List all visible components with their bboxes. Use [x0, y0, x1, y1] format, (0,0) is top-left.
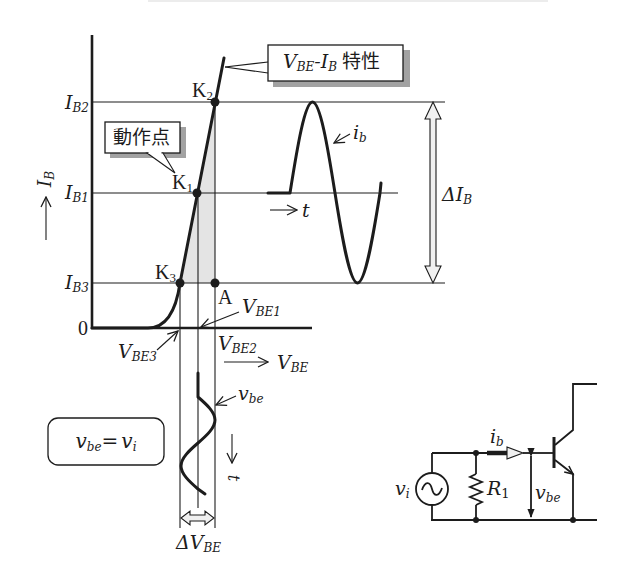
callout-characteristic: VBE-IB特性 [225, 45, 410, 87]
ac-tilde-icon [422, 483, 442, 495]
input-circuit: vi R1 ib vbe [395, 384, 597, 523]
tick-label-ib2: IB2 [64, 91, 89, 115]
base-current-label: ib [490, 425, 504, 449]
ib-wave-label: ib [353, 121, 367, 145]
callout-operating-point-text: 動作点 [113, 126, 170, 148]
x-axis-label: VBE [277, 351, 309, 375]
ib-time-label: t [302, 199, 310, 221]
label-a: A [218, 286, 233, 308]
callout-operating-point: 動作点 [105, 122, 186, 173]
node-dot [473, 450, 479, 456]
node-dot [473, 517, 479, 523]
equation-text: vbe=vi [75, 429, 136, 454]
label-k3: K3 [155, 261, 176, 285]
vbe-voltage-label: vbe [535, 481, 561, 505]
tick-label-vbe2: VBE2 [218, 332, 257, 356]
base-current-arrow-icon [507, 447, 523, 459]
callout-pointer-upper [225, 62, 268, 67]
source-label: vi [395, 477, 410, 501]
transistor-collector-lead [555, 384, 597, 445]
resistor-label: R1 [486, 477, 510, 501]
vbe-time-label: t [224, 475, 243, 482]
ib-label-pointer-arrow-icon [334, 134, 350, 143]
delta-vbe-double-arrow-icon [181, 511, 214, 525]
transistor-input-characteristic-diagram: IB2 IB1 IB3 0 IB K2 K1 K3 A VBE1 VBE2 VB… [0, 0, 628, 572]
vbe-label-pointer-arrow-icon [216, 396, 236, 405]
y-axis-label: IB [33, 171, 57, 189]
tick-label-vbe1: VBE1 [242, 295, 281, 319]
origin-label: 0 [78, 317, 88, 339]
callout-pointer-lower [225, 67, 268, 73]
vbe-wave-label: vbe [238, 382, 264, 406]
delta-ib-double-arrow-icon [425, 102, 441, 283]
delta-ib-label: ΔIB [441, 183, 472, 207]
vbe3-pointer-arrow-icon [157, 331, 178, 350]
vbe1-pointer-arrow-icon [201, 312, 239, 327]
label-k1: K1 [172, 171, 193, 195]
resistor-icon [470, 474, 482, 505]
tick-label-ib1: IB1 [64, 181, 89, 205]
tick-label-ib3: IB3 [64, 271, 89, 295]
tick-label-vbe3: VBE3 [118, 340, 157, 364]
label-k2: K2 [192, 79, 213, 103]
delta-vbe-label: ΔVBE [175, 531, 221, 555]
point-k3 [176, 279, 185, 288]
point-k1 [193, 189, 202, 198]
